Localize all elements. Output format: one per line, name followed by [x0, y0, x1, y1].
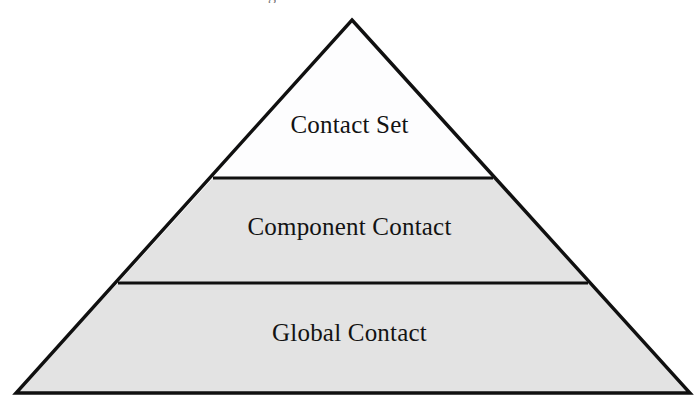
tier-label-component-contact: Component Contact [0, 214, 699, 239]
tier-shape-contact-set [213, 20, 493, 178]
pyramid-diagram [0, 0, 699, 409]
figure-canvas: g Contact Set Component Contact Global C… [0, 0, 699, 409]
tier-label-contact-set: Contact Set [0, 112, 699, 137]
tier-label-global-contact: Global Contact [0, 320, 699, 345]
